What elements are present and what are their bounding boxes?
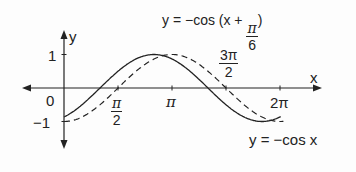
y-tick-label-1: 1	[48, 48, 56, 63]
x-axis-label: x	[310, 70, 318, 85]
y-axis-arrow-down-icon	[61, 140, 68, 149]
x-tick-label-pi: π	[166, 95, 176, 110]
chart-figure: y x 0 1 −1 π2 π 3π2 2π y = −cos (x + π6)…	[0, 0, 356, 172]
x-tick-label-two-pi: 2π	[270, 95, 289, 110]
x-axis-arrow-left-icon	[22, 85, 31, 92]
y-tick-label-neg1: −1	[33, 115, 50, 130]
x-tick-label-three-pi-half: 3π2	[219, 48, 238, 79]
y-axis-label: y	[69, 29, 77, 44]
y-axis-arrow-up-icon	[61, 30, 68, 39]
legend-shifted-equation: y = −cos (x + π6)	[162, 13, 262, 52]
origin-label: 0	[46, 93, 54, 108]
legend-base-equation: y = −cos x	[249, 132, 317, 147]
x-tick-label-pi-half: π2	[111, 96, 122, 127]
